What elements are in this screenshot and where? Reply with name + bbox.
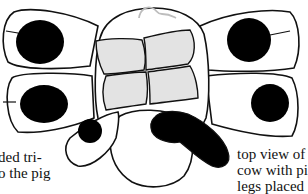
left-upper-leg	[3, 10, 98, 69]
caption-right: top view of cow with pig legs placed	[237, 146, 308, 194]
caption-right-line-1: top view of	[237, 146, 308, 162]
black-spot	[251, 84, 289, 122]
caption-left-line-1: ded tri-	[0, 149, 51, 165]
right-upper-leg	[200, 11, 299, 72]
cow-pig-diagram: ded tri- o the pig top view of cow with …	[0, 0, 308, 194]
panel-top-right	[144, 30, 194, 70]
caption-left: ded tri- o the pig	[0, 149, 51, 181]
left-lower-leg	[3, 73, 94, 132]
caption-left-line-2: o the pig	[0, 165, 51, 181]
panel-bottom-left	[103, 72, 148, 110]
right-lower-leg	[206, 73, 298, 136]
black-spot	[227, 18, 271, 62]
panel-bottom-right	[148, 66, 198, 104]
black-spot	[20, 85, 68, 123]
caption-right-line-3: legs placed	[237, 178, 308, 194]
black-spot	[78, 119, 102, 143]
caption-right-line-2: cow with pig	[237, 162, 308, 178]
black-spot	[16, 20, 64, 64]
panel-top-left	[96, 39, 145, 74]
